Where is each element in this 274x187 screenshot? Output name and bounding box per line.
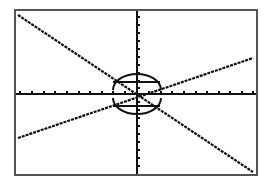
increasing-line [18, 58, 253, 138]
graph-canvas [0, 0, 274, 187]
graph-screen [0, 0, 274, 187]
